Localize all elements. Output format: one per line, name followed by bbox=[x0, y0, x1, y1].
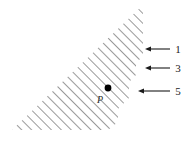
point-p-label: P bbox=[96, 94, 103, 105]
hatched-region bbox=[12, 5, 145, 130]
point-p-dot bbox=[105, 85, 112, 92]
figure-container: P 1 3 5 bbox=[0, 0, 193, 149]
arrow-head-3 bbox=[145, 65, 151, 70]
arrow-label-3: 3 bbox=[175, 62, 181, 74]
arrow-head-1 bbox=[145, 46, 151, 51]
arrow-label-1: 1 bbox=[175, 43, 181, 55]
geometry-figure: P 1 3 5 bbox=[0, 0, 193, 149]
arrow-group-3: 3 bbox=[145, 62, 181, 74]
arrow-group-1: 1 bbox=[145, 43, 181, 55]
arrow-label-5: 5 bbox=[175, 85, 181, 97]
